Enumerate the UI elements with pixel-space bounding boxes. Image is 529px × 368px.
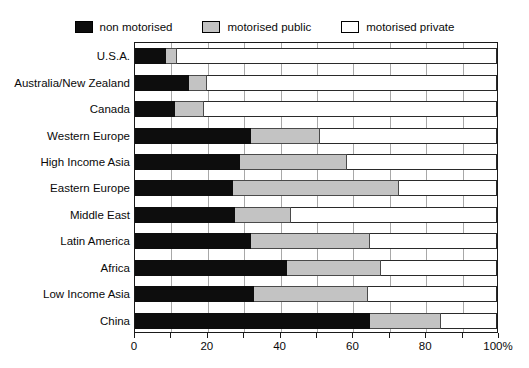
x-tick-20 (207, 333, 208, 338)
bar-row: Australia/New Zealand (135, 69, 497, 95)
x-tick-40 (280, 333, 281, 338)
segment-motorised-public[interactable] (240, 154, 347, 170)
x-tick-100 (498, 333, 499, 338)
stacked-bar[interactable] (135, 48, 497, 64)
segment-motorised-public[interactable] (233, 180, 400, 196)
stacked-bar[interactable] (135, 260, 497, 276)
x-tick-10 (170, 333, 171, 338)
x-tick-label-40: 40 (273, 340, 286, 353)
category-label-china: China (100, 314, 130, 327)
bar-row: Canada (135, 96, 497, 122)
legend-item-non-motorised[interactable]: non motorised (75, 21, 173, 33)
segment-motorised-public[interactable] (287, 260, 381, 276)
segment-non-motorised[interactable] (135, 233, 251, 249)
x-tick-90 (462, 333, 463, 338)
x-tick-label-0: 0 (131, 340, 137, 353)
stacked-bar-chart: non motorised motorised public motorised… (0, 0, 529, 368)
white-swatch-icon (341, 21, 359, 33)
category-label-high-income-asia: High Income Asia (41, 156, 131, 169)
category-label-canada: Canada (90, 103, 130, 116)
segment-motorised-private[interactable] (399, 180, 497, 196)
x-tick-50 (316, 333, 317, 338)
category-label-eastern-europe: Eastern Europe (50, 182, 130, 195)
segment-motorised-public[interactable] (254, 286, 368, 302)
segment-non-motorised[interactable] (135, 128, 251, 144)
segment-motorised-private[interactable] (368, 286, 497, 302)
segment-motorised-public[interactable] (235, 207, 291, 223)
stacked-bar[interactable] (135, 128, 497, 144)
segment-non-motorised[interactable] (135, 154, 240, 170)
x-tick-30 (243, 333, 244, 338)
bar-row: Western Europe (135, 122, 497, 148)
legend-label-motorised-public: motorised public (227, 21, 311, 33)
category-label-africa: Africa (101, 261, 130, 274)
segment-non-motorised[interactable] (135, 75, 189, 91)
x-tick-80 (425, 333, 426, 338)
x-tick-label-100: 100% (483, 340, 512, 353)
stacked-bar[interactable] (135, 75, 497, 91)
plot-area: U.S.A.Australia/New ZealandCanadaWestern… (134, 42, 498, 333)
segment-non-motorised[interactable] (135, 48, 166, 64)
category-label-u-s-a: U.S.A. (97, 50, 130, 63)
segment-motorised-public[interactable] (251, 233, 370, 249)
segment-motorised-private[interactable] (207, 75, 497, 91)
stacked-bar[interactable] (135, 101, 497, 117)
segment-motorised-public[interactable] (166, 48, 177, 64)
stacked-bar[interactable] (135, 313, 497, 329)
segment-motorised-private[interactable] (441, 313, 497, 329)
stacked-bar[interactable] (135, 286, 497, 302)
bar-rows: U.S.A.Australia/New ZealandCanadaWestern… (135, 43, 497, 332)
legend-label-non-motorised: non motorised (100, 21, 173, 33)
bar-row: Low Income Asia (135, 281, 497, 307)
segment-motorised-public[interactable] (175, 101, 204, 117)
x-tick-label-20: 20 (200, 340, 213, 353)
segment-motorised-private[interactable] (381, 260, 497, 276)
segment-non-motorised[interactable] (135, 101, 175, 117)
segment-motorised-private[interactable] (320, 128, 497, 144)
bar-row: High Income Asia (135, 149, 497, 175)
legend-item-motorised-public[interactable]: motorised public (202, 21, 311, 33)
stacked-bar[interactable] (135, 180, 497, 196)
category-label-middle-east: Middle East (70, 208, 130, 221)
category-label-australia-new-zealand: Australia/New Zealand (14, 76, 130, 89)
x-tick-70 (389, 333, 390, 338)
x-tick-60 (352, 333, 353, 338)
legend-label-motorised-private: motorised private (366, 21, 454, 33)
segment-non-motorised[interactable] (135, 207, 235, 223)
segment-non-motorised[interactable] (135, 260, 287, 276)
x-tick-label-60: 60 (346, 340, 359, 353)
chart-legend: non motorised motorised public motorised… (0, 16, 529, 38)
segment-non-motorised[interactable] (135, 180, 233, 196)
segment-non-motorised[interactable] (135, 286, 254, 302)
segment-motorised-public[interactable] (189, 75, 207, 91)
stacked-bar[interactable] (135, 154, 497, 170)
bar-row: Latin America (135, 228, 497, 254)
x-axis: 020406080100% (134, 333, 498, 363)
segment-motorised-public[interactable] (251, 128, 320, 144)
x-tick-0 (134, 333, 135, 338)
stacked-bar[interactable] (135, 233, 497, 249)
x-tick-label-80: 80 (419, 340, 432, 353)
stacked-bar[interactable] (135, 207, 497, 223)
segment-motorised-public[interactable] (370, 313, 441, 329)
bar-row: Middle East (135, 202, 497, 228)
segment-motorised-private[interactable] (347, 154, 497, 170)
bar-row: Africa (135, 255, 497, 281)
black-swatch-icon (75, 21, 93, 33)
segment-non-motorised[interactable] (135, 313, 370, 329)
category-label-low-income-asia: Low Income Asia (43, 288, 130, 301)
segment-motorised-private[interactable] (370, 233, 497, 249)
segment-motorised-private[interactable] (177, 48, 497, 64)
bar-row: Eastern Europe (135, 175, 497, 201)
segment-motorised-private[interactable] (291, 207, 497, 223)
segment-motorised-private[interactable] (204, 101, 497, 117)
bar-row: China (135, 308, 497, 334)
gray-swatch-icon (202, 21, 220, 33)
category-label-western-europe: Western Europe (47, 129, 130, 142)
category-label-latin-america: Latin America (60, 235, 130, 248)
bar-row: U.S.A. (135, 43, 497, 69)
legend-item-motorised-private[interactable]: motorised private (341, 21, 454, 33)
